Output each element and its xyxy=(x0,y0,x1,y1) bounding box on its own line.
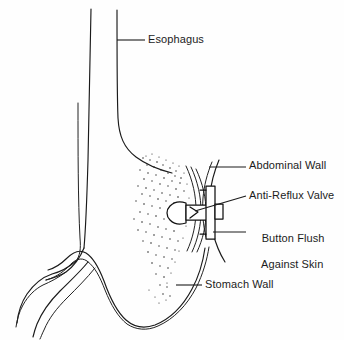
stomach-outer-wall xyxy=(46,248,84,280)
label-esophagus: Esophagus xyxy=(148,33,204,46)
label-stomach-wall: Stomach Wall xyxy=(205,278,274,291)
gastric-contents-stippling xyxy=(133,153,189,303)
esophagus-left-wall xyxy=(84,9,91,248)
label-abdominal-wall: Abdominal Wall xyxy=(249,159,326,172)
external-button-flange xyxy=(206,186,215,239)
button-cap xyxy=(215,204,223,219)
label-button-flush-line1: Button Flush xyxy=(262,232,325,244)
stomach-inner-wall xyxy=(46,247,209,329)
label-button-flush: Button Flush Against Skin xyxy=(249,219,325,284)
label-anti-reflux-valve: Anti-Reflux Valve xyxy=(249,189,334,202)
gastrostomy-button-diagram: Esophagus Abdominal Wall Anti-Reflux Val… xyxy=(0,0,344,340)
duodenum-upper-wall xyxy=(17,261,76,323)
stomach-lesser-curvature-inner xyxy=(76,103,80,261)
internal-mushroom-bolster xyxy=(167,202,186,224)
label-button-flush-line2: Against Skin xyxy=(261,258,323,270)
leader-lines xyxy=(117,40,246,285)
stomach-outer-wall-lower xyxy=(48,248,205,327)
duodenum-group xyxy=(16,261,95,339)
duodenum-distal-lower xyxy=(40,268,95,339)
